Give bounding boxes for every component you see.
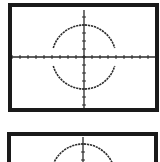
graph-2-content <box>11 137 155 162</box>
graph-1-content <box>12 10 156 108</box>
graph-plots <box>0 0 160 162</box>
